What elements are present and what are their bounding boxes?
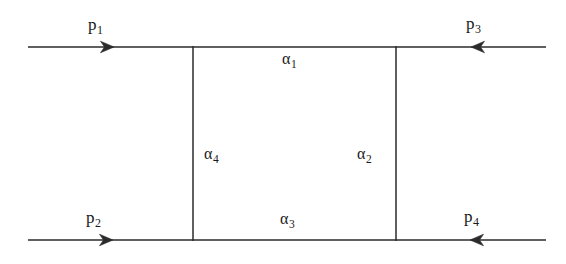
feynman-box-diagram: p1 p3 p2 p4 α1 α2 α3 α4: [0, 0, 566, 264]
label-alpha-2: α2: [357, 146, 372, 166]
label-p3-base: p: [466, 14, 475, 33]
label-p2-subscript: 2: [95, 216, 102, 230]
label-alpha-4-subscript: 4: [212, 153, 218, 165]
label-p1-subscript: 1: [97, 23, 104, 37]
label-p3-subscript: 3: [475, 22, 482, 36]
label-p4: p4: [464, 208, 479, 228]
label-alpha-4: α4: [204, 146, 219, 166]
label-p1-base: p: [88, 15, 97, 34]
label-p1: p1: [88, 16, 103, 36]
label-alpha-2-subscript: 2: [365, 153, 371, 165]
label-p4-base: p: [464, 207, 473, 226]
label-alpha-3-subscript: 3: [288, 218, 294, 230]
label-alpha-1-subscript: 1: [290, 58, 296, 70]
label-p4-subscript: 4: [473, 215, 480, 229]
label-alpha-3: α3: [280, 211, 295, 231]
label-p3: p3: [466, 15, 481, 35]
label-p2-base: p: [86, 208, 95, 227]
label-alpha-1: α1: [282, 51, 297, 71]
label-p2: p2: [86, 209, 101, 229]
